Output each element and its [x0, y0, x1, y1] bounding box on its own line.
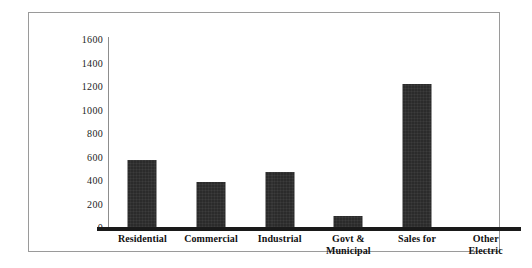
bar	[334, 216, 363, 227]
bar-slot	[451, 37, 520, 227]
y-tick-label: 600	[57, 153, 103, 163]
x-category-label-line: Electric	[446, 245, 526, 257]
y-axis-tick-labels: 16001400120010008006004002000	[55, 13, 103, 268]
bar-slot	[383, 37, 452, 227]
bar	[265, 172, 294, 227]
x-category-label-line: Municipal	[308, 245, 388, 257]
bar-chart-figure: 16001400120010008006004002000 Residentia…	[0, 0, 532, 268]
bar-slot	[245, 37, 314, 227]
bar-slot	[177, 37, 246, 227]
bar-slot	[314, 37, 383, 227]
y-tick-label: 1200	[57, 82, 103, 92]
chart-frame: 16001400120010008006004002000 Residentia…	[28, 12, 500, 252]
x-category-label-line: Other	[473, 233, 499, 244]
bars-group	[108, 37, 520, 227]
y-tick-label: 800	[57, 129, 103, 139]
y-tick-label: 1600	[57, 35, 103, 45]
y-tick-label: 0	[57, 223, 103, 233]
y-tick-label: 200	[57, 200, 103, 210]
x-category-label-line: Sales for	[398, 233, 436, 244]
x-category-label-line: Govt &	[332, 233, 365, 244]
y-tick-label: 1000	[57, 106, 103, 116]
x-axis-line	[97, 227, 521, 231]
bar	[128, 160, 157, 227]
x-category-label-line: Residential	[118, 233, 167, 244]
x-category-label-line: Industrial	[258, 233, 302, 244]
bar	[196, 182, 225, 227]
x-category-label: OtherElectric	[446, 233, 526, 257]
x-category-label-line: Commercial	[184, 233, 238, 244]
x-axis-category-labels: ResidentialCommercialIndustrialGovt &Mun…	[108, 233, 520, 268]
bar	[402, 84, 431, 227]
y-tick-label: 400	[57, 176, 103, 186]
bar-slot	[108, 37, 177, 227]
y-tick-label: 1400	[57, 59, 103, 69]
